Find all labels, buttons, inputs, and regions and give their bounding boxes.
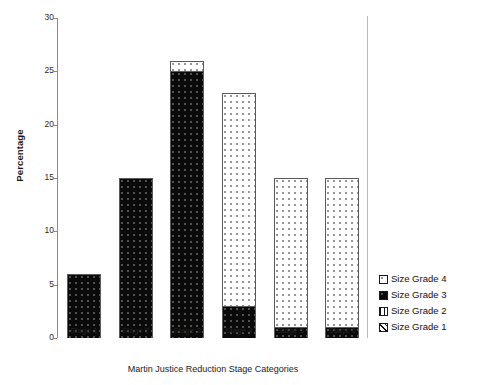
y-axis-tick-mark: [53, 18, 57, 19]
bar-stack[interactable]: [274, 178, 308, 338]
x-axis-tick-label: Stage 6: [312, 326, 372, 335]
bar-stack[interactable]: [222, 93, 256, 338]
bar-stack[interactable]: [170, 61, 204, 338]
legend-swatch-icon: [379, 307, 388, 316]
legend-separator: [367, 16, 368, 338]
legend-item[interactable]: Size Grade 3: [379, 287, 483, 303]
y-axis-tick-label: 20: [24, 119, 54, 129]
legend-swatch-icon: [379, 323, 388, 332]
y-axis-tick-label: 25: [24, 65, 54, 75]
legend-item-label: Size Grade 4: [391, 274, 446, 284]
legend-swatch-icon: [379, 291, 388, 300]
legend-item-label: Size Grade 2: [391, 306, 446, 316]
y-axis-tick-mark: [53, 125, 57, 126]
bar-chart-figure: Percentage 051015202530 Martin Justice R…: [0, 0, 483, 385]
x-axis-title: Martin Justice Reduction Stage Categorie…: [58, 364, 368, 374]
legend-swatch-icon: [379, 275, 388, 284]
bar-segment[interactable]: [222, 93, 256, 306]
x-axis-line: [58, 337, 368, 338]
y-axis-tick-mark: [53, 178, 57, 179]
bar-segment[interactable]: [119, 178, 153, 338]
plot-area: [58, 18, 368, 338]
y-axis-tick-mark: [53, 231, 57, 232]
chart-legend: Size Grade 4Size Grade 3Size Grade 2Size…: [379, 271, 483, 335]
bar-stack[interactable]: [325, 178, 359, 338]
legend-item[interactable]: Size Grade 2: [379, 303, 483, 319]
y-axis-tick-label: 0: [24, 332, 54, 342]
bar-segment[interactable]: [325, 178, 359, 327]
y-axis-tick-label: 30: [24, 12, 54, 22]
y-axis-title: Percentage: [14, 101, 25, 211]
legend-item-label: Size Grade 1: [391, 322, 446, 332]
legend-item-label: Size Grade 3: [391, 290, 446, 300]
y-axis-tick-label: 10: [24, 225, 54, 235]
legend-item[interactable]: Size Grade 1: [379, 319, 483, 335]
bar-segment[interactable]: [274, 178, 308, 327]
y-axis-tick-label: 5: [24, 279, 54, 289]
y-axis-tick-label: 15: [24, 172, 54, 182]
y-axis-tick-mark: [53, 285, 57, 286]
bar-segment[interactable]: [170, 61, 204, 72]
bar-stack[interactable]: [119, 178, 153, 338]
y-axis-tick-mark: [53, 71, 57, 72]
bar-segment[interactable]: [170, 71, 204, 338]
y-axis-tick-mark: [53, 338, 57, 339]
legend-item[interactable]: Size Grade 4: [379, 271, 483, 287]
